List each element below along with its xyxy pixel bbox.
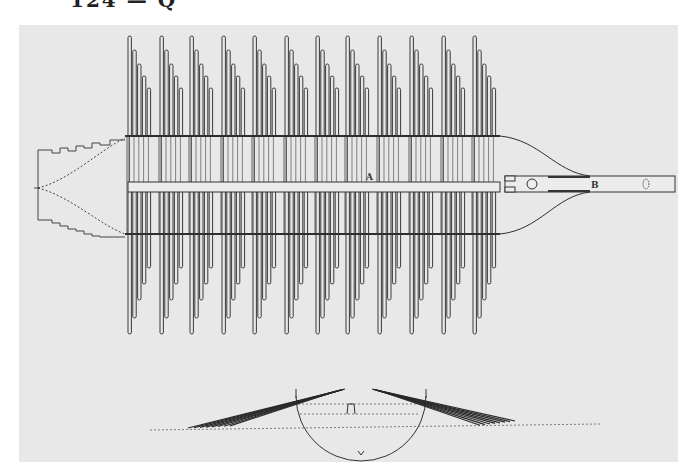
fanned-tines (188, 389, 515, 428)
label-a: A (365, 172, 374, 182)
label-b: B (591, 180, 599, 190)
central-bar (128, 182, 500, 192)
left-end-structure (34, 138, 125, 237)
technical-drawing: A B (0, 0, 696, 476)
handle (505, 176, 675, 192)
